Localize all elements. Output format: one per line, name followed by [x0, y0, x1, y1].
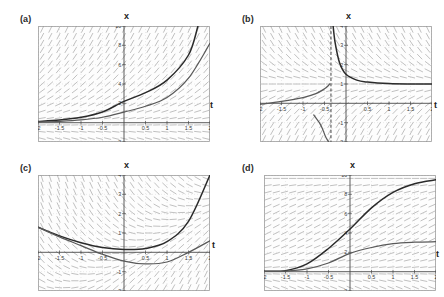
panel-a-x-axis-name: x: [124, 11, 129, 21]
tick-label-x: 1: [392, 274, 395, 280]
tick-label-y: 8: [118, 42, 121, 48]
panel-a: (a) x t -2-1.5-1-0.50.511.52-2246810: [0, 0, 222, 148]
panel-c-x-axis-name: x: [124, 160, 129, 170]
tick-label-x: 1: [166, 125, 169, 131]
tick-label-x: -0.5: [98, 125, 107, 131]
tick-label-x: 2: [431, 106, 433, 112]
tick-label-y: 4: [118, 175, 121, 178]
panel-a-t-axis-name: t: [210, 100, 213, 110]
panel-b-label: (b): [242, 14, 254, 24]
tick-label-y: -1: [338, 120, 343, 126]
tick-label-y: 2: [118, 211, 121, 217]
tick-label-x: -1.5: [55, 125, 64, 131]
tick-label-x: 1.5: [185, 255, 193, 261]
tick-label-x: 1.5: [185, 125, 193, 131]
tick-label-x: -1: [305, 274, 310, 280]
tick-label-y: -2: [338, 139, 343, 142]
panel-d-label: (d): [242, 163, 254, 173]
tick-label-y: -2: [342, 288, 347, 291]
panel-a-label: (a): [20, 14, 31, 24]
tick-label-y: 10: [115, 26, 121, 29]
tick-label-x: -2: [38, 125, 40, 131]
tick-label-x: -1.5: [281, 274, 290, 280]
panel-d-plot: -2-1.5-1-0.50.511.52-2246810: [264, 175, 436, 291]
tick-label-y: 4: [118, 81, 121, 87]
panel-b: (b) x t -2-1.5-1-0.50.511.52-2-11234: [222, 0, 444, 148]
tick-label-x: -1: [301, 106, 306, 112]
tick-label-x: -1.5: [277, 106, 286, 112]
panel-b-t-axis-name: t: [434, 100, 437, 110]
panel-b-x-axis-name: x: [346, 11, 351, 21]
tick-label-x: 1.5: [407, 106, 415, 112]
tick-label-x: 0.5: [142, 255, 150, 261]
tick-label-y: 3: [340, 42, 343, 48]
panel-d-t-axis-name: t: [436, 249, 439, 259]
panel-c-t-axis-name: t: [212, 240, 215, 250]
tick-label-x: 0.5: [368, 274, 376, 280]
tick-label-y: 1: [118, 230, 121, 236]
tick-label-x: 0.5: [364, 106, 372, 112]
tick-label-x: 2: [209, 125, 211, 131]
tick-label-y: 3: [118, 191, 121, 197]
tick-label-y: 10: [341, 175, 347, 178]
tick-label-x: -0.5: [320, 106, 329, 112]
tick-label-x: 0.5: [142, 125, 150, 131]
panel-a-plot: -2-1.5-1-0.50.511.52-2246810: [38, 26, 210, 142]
tick-label-x: -1: [79, 125, 84, 131]
panel-b-plot: -2-1.5-1-0.50.511.52-2-11234: [260, 26, 432, 142]
tick-label-x: -1.5: [55, 255, 64, 261]
tick-label-x: -2: [260, 106, 262, 112]
tick-label-x: -1: [79, 255, 84, 261]
panel-d-x-axis-name: x: [350, 160, 355, 170]
tick-label-x: 2: [435, 274, 437, 280]
tick-label-x: -2: [264, 274, 266, 280]
tick-label-y: 6: [118, 62, 121, 68]
tick-label-y: -1: [116, 269, 121, 275]
figure-canvas: (a) x t -2-1.5-1-0.50.511.52-2246810 (b)…: [0, 0, 444, 297]
tick-label-x: 1: [166, 255, 169, 261]
tick-label-x: -2: [38, 255, 40, 261]
tick-label-x: -0.5: [324, 274, 333, 280]
tick-label-x: 2: [209, 255, 211, 261]
tick-label-y: 6: [344, 211, 347, 217]
tick-label-y: -2: [116, 288, 121, 291]
tick-label-x: 1: [388, 106, 391, 112]
tick-label-y: -2: [116, 139, 121, 142]
panel-c-label: (c): [20, 163, 31, 173]
panel-c-plot: -2-1.5-1-0.50.511.52-2-11234: [38, 175, 210, 291]
tick-label-y: 8: [344, 191, 347, 197]
panel-c: (c) x t -2-1.5-1-0.50.511.52-2-11234: [0, 149, 222, 297]
panel-d: (d) x t -2-1.5-1-0.50.511.52-2246810: [222, 149, 444, 297]
tick-label-y: 1: [340, 81, 343, 87]
tick-label-x: 1.5: [411, 274, 419, 280]
tick-label-y: 4: [340, 26, 343, 29]
